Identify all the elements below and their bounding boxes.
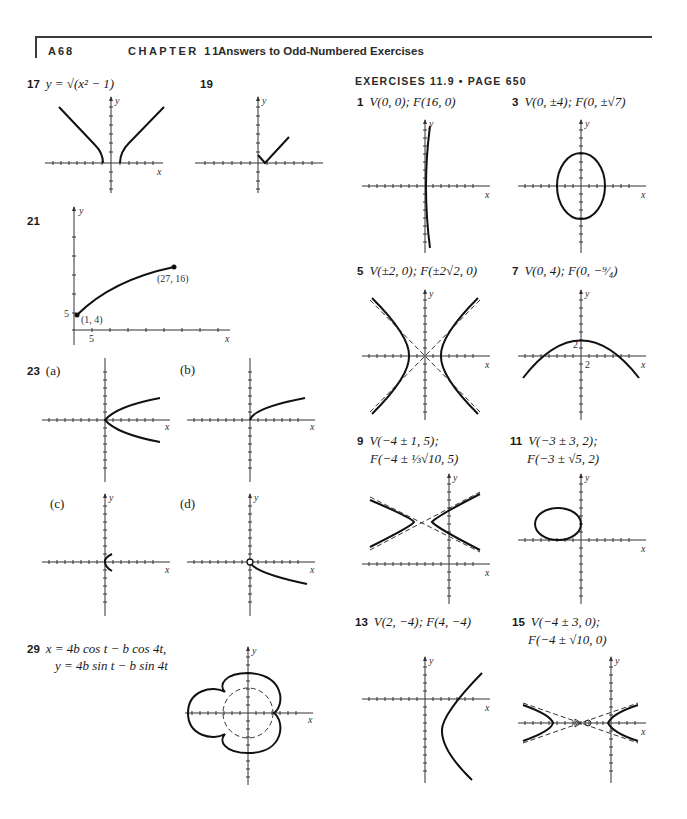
exercise-answer: y = √(x² − 1) [46, 76, 114, 91]
svg-text:y: y [452, 472, 458, 483]
svg-text:x: x [484, 189, 490, 200]
exercise-number: 23 [27, 365, 40, 377]
exercise-answer-line2: y = 4b sin t − b sin 4t [55, 658, 168, 673]
exercise-number: 21 [27, 215, 40, 227]
exercise-number: 11 [510, 435, 522, 447]
exercise-answer: V(0, 4); F(0, −⁹⁄₄) [524, 263, 617, 278]
svg-text:y: y [78, 205, 84, 216]
exercise-number: 17 [27, 78, 40, 90]
exercise-7-label: 7V(0, 4); F(0, −⁹⁄₄) [512, 262, 618, 280]
graph-ex9: y x [362, 472, 492, 607]
graph-ex11: y x [518, 472, 648, 607]
svg-text:x: x [307, 714, 313, 725]
graph-ex21: y x 5 5 (1, 4) (27, 16) [62, 205, 242, 355]
graph-ex19: y [195, 95, 325, 195]
exercise-answer: V(2, −4); F(4, −4) [374, 614, 471, 629]
exercise-number: 5 [357, 265, 363, 277]
exercise-15-label: 15V(−4 ± 3, 0); [512, 613, 600, 631]
exercise-number: 29 [27, 643, 40, 655]
exercise-answer: V(±2, 0); F(±2√2, 0) [369, 263, 477, 278]
exercise-answer: V(0, 0); F(16, 0) [369, 94, 455, 109]
graph-ex23b: x [187, 358, 317, 483]
svg-text:x: x [309, 564, 315, 575]
graph-ex5: y x [362, 288, 492, 423]
exercise-answer-line2: F(−4 ± ⅓√10, 5) [370, 451, 458, 466]
svg-text:x: x [309, 421, 315, 432]
exercise-9-label: 9V(−4 ± 1, 5); [357, 432, 439, 450]
svg-text:x: x [484, 359, 490, 370]
svg-text:y: y [261, 95, 267, 106]
header-rule [35, 36, 652, 38]
svg-text:x: x [484, 567, 490, 578]
svg-text:y: y [253, 492, 259, 503]
page-title: Answers to Odd-Numbered Exercises [218, 45, 424, 57]
exercise-1-label: 1V(0, 0); F(16, 0) [357, 93, 456, 111]
graph-ex23a: x [42, 358, 172, 483]
svg-text:y: y [114, 95, 120, 106]
section-title: EXERCISES 11.9 • PAGE 650 [355, 75, 527, 87]
exercise-13-label: 13V(2, −4); F(4, −4) [355, 613, 471, 631]
exercise-11-line2: F(−3 ± √5, 2) [527, 450, 599, 467]
chapter-label: CHAPTER 11 [128, 45, 221, 57]
graph-ex7: y x 2 2 [518, 288, 648, 423]
exercise-17-label: 17y = √(x² − 1) [27, 75, 114, 93]
svg-text:2: 2 [585, 359, 590, 370]
svg-text:(27, 16): (27, 16) [157, 273, 189, 285]
svg-text:x: x [164, 564, 170, 575]
exercise-19-label: 19 [200, 75, 219, 93]
exercise-answer-line2: F(−3 ± √5, 2) [527, 451, 599, 466]
exercise-answer: V(0, ±4); F(0, ±√7) [524, 94, 625, 109]
graph-ex29: y x [185, 645, 315, 795]
svg-text:y: y [584, 472, 590, 483]
graph-ex17: y x [45, 95, 165, 195]
svg-text:y: y [614, 655, 620, 666]
exercise-29-label: 29x = 4b cos t − b cos 4t, [27, 640, 166, 658]
exercise-number: 3 [512, 96, 518, 108]
svg-text:y: y [428, 655, 434, 666]
graph-ex13: y x [362, 655, 492, 785]
exercise-21-label: 21 [27, 212, 46, 230]
svg-text:5: 5 [64, 308, 69, 319]
svg-text:y: y [251, 645, 257, 656]
exercise-number: 9 [357, 435, 363, 447]
graph-ex23d: y x [187, 492, 317, 617]
svg-text:y: y [108, 492, 114, 503]
svg-text:x: x [640, 726, 646, 737]
svg-text:x: x [640, 359, 646, 370]
exercise-number: 1 [357, 96, 363, 108]
exercise-15-line2: F(−4 ± √10, 0) [528, 631, 607, 648]
exercise-number: 13 [355, 616, 368, 628]
svg-text:x: x [156, 166, 162, 177]
svg-text:x: x [640, 189, 646, 200]
svg-text:y: y [584, 288, 590, 299]
svg-text:x: x [164, 421, 170, 432]
graph-ex3: y x [518, 118, 648, 258]
exercise-9-line2: F(−4 ± ⅓√10, 5) [370, 450, 458, 467]
graph-ex15: y x [518, 655, 648, 785]
exercise-answer-line1: V(−4 ± 3, 0); [531, 614, 600, 629]
exercise-3-label: 3V(0, ±4); F(0, ±√7) [512, 93, 626, 111]
svg-text:5: 5 [89, 333, 94, 344]
svg-text:y: y [584, 118, 590, 129]
exercise-number: 15 [512, 616, 525, 628]
exercise-29-line2: y = 4b sin t − b sin 4t [55, 657, 168, 674]
exercise-5-label: 5V(±2, 0); F(±2√2, 0) [357, 262, 477, 280]
exercise-answer-line1: V(−3 ± 3, 2); [528, 433, 597, 448]
header-rule-tick [35, 36, 37, 58]
exercise-answer-line1: x = 4b cos t − b cos 4t, [46, 641, 166, 656]
svg-text:y: y [428, 288, 434, 299]
svg-text:x: x [224, 333, 230, 344]
graph-ex23c: y x [42, 492, 172, 617]
svg-text:x: x [484, 702, 490, 713]
svg-text:x: x [640, 543, 646, 554]
exercise-11-label: 11V(−3 ± 3, 2); [510, 432, 598, 450]
exercise-answer-line1: V(−4 ± 1, 5); [369, 433, 438, 448]
exercise-number: 19 [200, 78, 213, 90]
page-number: A68 [48, 45, 74, 57]
exercise-number: 7 [512, 265, 518, 277]
graph-ex1: y x [362, 118, 492, 258]
svg-text:(1, 4): (1, 4) [81, 314, 103, 326]
exercise-answer-line2: F(−4 ± √10, 0) [528, 632, 607, 647]
